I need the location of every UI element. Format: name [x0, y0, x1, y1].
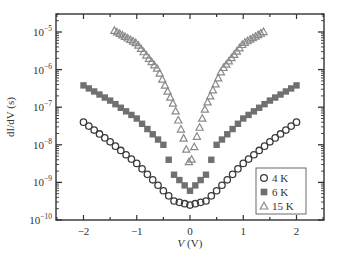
- series-15k: [111, 27, 267, 165]
- y-axis-title: dI/dV (s): [4, 97, 17, 137]
- x-tick-label: 0: [187, 225, 193, 237]
- x-axis-title: V (V): [178, 237, 203, 250]
- y-tick-label: 10−5: [33, 24, 52, 38]
- y-tick-label: 10−8: [33, 137, 52, 151]
- legend-label: 6 K: [272, 186, 288, 198]
- x-tick-label: −2: [78, 225, 90, 237]
- x-tick-label: −1: [131, 225, 143, 237]
- y-tick-label: 10−9: [33, 174, 52, 188]
- x-tick-label: 2: [294, 225, 300, 237]
- y-tick-label: 10−10: [29, 212, 52, 226]
- legend-label: 15 K: [272, 200, 294, 212]
- legend-label: 4 K: [272, 172, 288, 184]
- legend: 4 K6 K15 K: [256, 168, 306, 214]
- y-tick-label: 10−7: [33, 99, 52, 113]
- y-tick-label: 10−6: [33, 62, 52, 76]
- didv-vs-voltage-chart: −2−1012 10−1010−910−810−710−610−5 4 K6 K…: [0, 0, 342, 262]
- x-tick-label: 1: [241, 225, 247, 237]
